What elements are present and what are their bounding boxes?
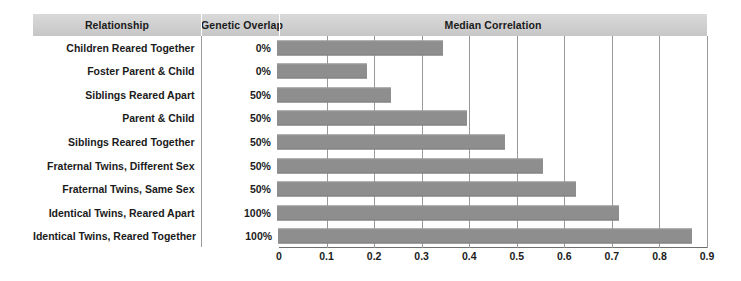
bar xyxy=(278,229,692,244)
column-header-genetic-overlap: Genetic Overlap xyxy=(201,19,279,31)
genetic-overlap-value: 0% xyxy=(200,65,277,77)
x-tick-label: 0.5 xyxy=(509,250,524,262)
bar xyxy=(277,205,619,220)
genetic-overlap-value: 50% xyxy=(200,89,277,101)
relationship-label: Siblings Reared Together xyxy=(33,136,200,148)
median-correlation-chart: Relationship Genetic Overlap Median Corr… xyxy=(0,0,741,281)
genetic-overlap-value: 50% xyxy=(200,183,277,195)
genetic-overlap-value: 50% xyxy=(200,112,277,124)
bar xyxy=(277,158,543,173)
bar xyxy=(277,134,505,149)
bar xyxy=(277,182,577,197)
table-header: Relationship Genetic Overlap Median Corr… xyxy=(33,14,707,36)
header-divider-2 xyxy=(279,14,280,36)
x-axis-tick-labels: 00.10.20.30.40.50.60.70.80.9 xyxy=(279,250,707,266)
x-tick-label: 0.6 xyxy=(557,250,572,262)
relationship-label: Children Reared Together xyxy=(33,42,200,54)
x-tick-label: 0.2 xyxy=(367,250,382,262)
x-tick-label: 0.8 xyxy=(652,250,667,262)
relationship-label: Parent & Child xyxy=(33,112,200,124)
relationship-label: Siblings Reared Apart xyxy=(33,89,200,101)
x-tick-label: 0.7 xyxy=(605,250,620,262)
genetic-overlap-value: 0% xyxy=(200,42,277,54)
relationship-label: Fraternal Twins, Different Sex xyxy=(33,160,200,172)
bar xyxy=(277,87,391,102)
column-header-median-correlation: Median Correlation xyxy=(279,19,707,31)
relationship-label: Identical Twins, Reared Apart xyxy=(33,207,200,219)
bar xyxy=(277,40,443,55)
genetic-overlap-value: 50% xyxy=(200,136,277,148)
gridline xyxy=(659,36,660,248)
genetic-overlap-value: 100% xyxy=(201,230,278,242)
genetic-overlap-value: 100% xyxy=(200,207,277,219)
relationship-label: Identical Twins, Reared Together xyxy=(33,230,201,242)
bar xyxy=(277,111,467,126)
bar xyxy=(277,64,367,79)
x-tick-label: 0.9 xyxy=(700,250,715,262)
relationship-label: Foster Parent & Child xyxy=(33,65,200,77)
gridline xyxy=(707,36,708,248)
header-divider-1 xyxy=(201,14,202,36)
x-tick-label: 0 xyxy=(276,250,282,262)
x-tick-label: 0.4 xyxy=(462,250,477,262)
relationship-label: Fraternal Twins, Same Sex xyxy=(33,183,200,195)
column-header-relationship: Relationship xyxy=(33,19,201,31)
genetic-overlap-value: 50% xyxy=(200,160,277,172)
x-tick-label: 0.3 xyxy=(414,250,429,262)
x-tick-label: 0.1 xyxy=(319,250,334,262)
